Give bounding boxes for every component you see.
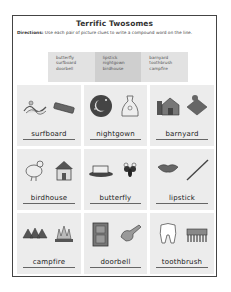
word-bank-column-1: butterfly surfboard doorbell xyxy=(48,52,95,82)
surf-wave-icon xyxy=(22,92,48,120)
word-bank-column-2: lipstick nightgown birdhouse xyxy=(95,52,142,82)
answer-line[interactable]: surfboard xyxy=(23,129,75,140)
directions: Directions: Use each pair of picture clu… xyxy=(17,30,212,36)
bell-icon xyxy=(117,220,143,248)
board-icon xyxy=(51,92,77,120)
gown-icon xyxy=(117,92,143,120)
stick-icon xyxy=(184,156,210,184)
picture-cell: butterfly xyxy=(84,149,147,210)
worksheet: Terrific Twosomes Directions: Use each p… xyxy=(12,15,217,277)
word-bank-column-3: barnyard toothbrush campfire xyxy=(141,52,188,82)
word-bank-word: campfire xyxy=(149,66,188,71)
fire-icon xyxy=(51,220,77,248)
worksheet-title: Terrific Twosomes xyxy=(13,19,216,28)
picture-cell: surfboard xyxy=(17,85,81,146)
tooth-icon xyxy=(155,220,181,248)
picture-cell: lipstick xyxy=(150,149,214,210)
barn-icon xyxy=(155,92,181,120)
picture-grid: surfboard nightgown xyxy=(17,85,214,274)
yard-icon xyxy=(184,92,210,120)
picture-cell: nightgown xyxy=(84,85,147,146)
picture-cell: doorbell xyxy=(84,213,147,274)
picture-cell: campfire xyxy=(17,213,81,274)
word-bank: butterfly surfboard doorbell lipstick ni… xyxy=(48,52,188,82)
answer-line[interactable]: campfire xyxy=(23,257,75,268)
answer-line[interactable]: doorbell xyxy=(90,257,141,268)
directions-text: Use each pair of picture clues to write … xyxy=(43,30,192,35)
answer-line[interactable]: nightgown xyxy=(90,129,141,140)
camp-tents-icon xyxy=(22,220,48,248)
word-bank-word: birdhouse xyxy=(103,66,142,71)
fly-icon xyxy=(117,156,143,184)
answer-line[interactable]: butterfly xyxy=(90,193,141,204)
brush-icon xyxy=(184,220,210,248)
answer-line[interactable]: lipstick xyxy=(156,193,208,204)
house-icon xyxy=(51,156,77,184)
bird-icon xyxy=(22,156,48,184)
directions-label: Directions: xyxy=(17,30,43,35)
answer-line[interactable]: toothbrush xyxy=(156,257,208,268)
word-bank-word: doorbell xyxy=(56,66,95,71)
answer-line[interactable]: barnyard xyxy=(156,129,208,140)
picture-cell: toothbrush xyxy=(150,213,214,274)
picture-cell: birdhouse xyxy=(17,149,81,210)
picture-cell: barnyard xyxy=(150,85,214,146)
answer-line[interactable]: birdhouse xyxy=(23,193,75,204)
door-icon xyxy=(88,220,114,248)
lips-icon xyxy=(155,156,181,184)
night-moon-icon xyxy=(88,92,114,120)
butter-icon xyxy=(88,156,114,184)
